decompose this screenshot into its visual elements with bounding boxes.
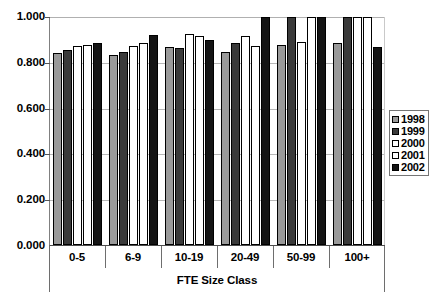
y-tick-label: 0.000 (0, 240, 45, 252)
bar (93, 43, 102, 245)
legend-swatch-icon (392, 164, 399, 171)
x-axis-category-label: 0-5 (49, 246, 105, 268)
bar (205, 40, 214, 245)
x-axis-category-label: 6-9 (105, 246, 161, 268)
bar (109, 55, 118, 245)
y-tick-label: 0.200 (0, 194, 45, 206)
legend-item[interactable]: 1999 (392, 125, 425, 137)
bar (363, 17, 372, 245)
y-tick-label: 0.400 (0, 149, 45, 161)
bar (297, 42, 306, 245)
legend-label: 2002 (401, 162, 425, 173)
category-label-text: 20-49 (231, 251, 259, 263)
legend-item[interactable]: 2000 (392, 137, 425, 149)
category-label-text: 50-99 (287, 251, 315, 263)
bar (83, 45, 92, 245)
bar (287, 17, 296, 245)
legend-label: 2001 (401, 150, 425, 161)
legend-item[interactable]: 2002 (392, 161, 425, 173)
bar (73, 46, 82, 246)
legend-item[interactable]: 1998 (392, 113, 425, 125)
category-label-text: 10-19 (175, 251, 203, 263)
bar-group (50, 17, 106, 245)
bar (231, 43, 240, 245)
legend-label: 1999 (401, 126, 425, 137)
category-separator (161, 246, 162, 268)
bar (165, 47, 174, 245)
bar (373, 47, 382, 245)
y-tick-label: 0.600 (0, 103, 45, 115)
bar (63, 50, 72, 245)
bar-groups (50, 17, 385, 245)
x-axis-category-label: 20-49 (217, 246, 273, 268)
bar-group (217, 17, 273, 245)
bar (119, 52, 128, 245)
bar-chart: 1.000 0.800 0.600 0.400 0.200 0.000 0-56… (0, 0, 437, 296)
bar (195, 36, 204, 245)
x-axis-category-label: 10-19 (161, 246, 217, 268)
category-separator (217, 246, 218, 268)
legend-swatch-icon (392, 140, 399, 147)
bar (175, 48, 184, 245)
axis-band-edge-right (384, 268, 385, 292)
bar (251, 46, 260, 246)
bar (129, 46, 138, 246)
x-axis-title: FTE Size Class (177, 274, 257, 286)
legend-label: 1998 (401, 114, 425, 125)
bar (149, 35, 158, 245)
bar-group (162, 17, 218, 245)
y-tick-label: 0.800 (0, 57, 45, 69)
bar (277, 45, 286, 245)
bar (53, 53, 62, 245)
category-separator (49, 246, 50, 268)
bar (221, 52, 230, 245)
bar (185, 34, 194, 245)
axis-band-edge-left (49, 268, 50, 292)
legend-swatch-icon (392, 152, 399, 159)
bar (343, 17, 352, 245)
bar (307, 17, 316, 245)
bar (317, 17, 326, 245)
x-axis-category-label: 50-99 (273, 246, 329, 268)
bar-group (106, 17, 162, 245)
category-separator (273, 246, 274, 268)
legend-item[interactable]: 2001 (392, 149, 425, 161)
legend: 19981999200020012002 (389, 110, 429, 176)
category-label-text: 6-9 (125, 251, 141, 263)
bar (261, 17, 270, 245)
plot-area (49, 17, 385, 246)
bar (139, 43, 148, 245)
legend-label: 2000 (401, 138, 425, 149)
y-tick-label: 1.000 (0, 11, 45, 23)
bar (333, 43, 342, 245)
x-axis-category-label: 100+ (329, 246, 385, 268)
x-axis-categories: 0-56-910-1920-4950-99100+ (49, 246, 385, 268)
bar (241, 36, 250, 245)
x-axis-title-band: FTE Size Class (49, 268, 385, 292)
bar-group (273, 17, 329, 245)
legend-swatch-icon (392, 116, 399, 123)
category-label-text: 0-5 (69, 251, 85, 263)
category-separator (384, 246, 385, 268)
category-separator (329, 246, 330, 268)
category-separator (105, 246, 106, 268)
legend-swatch-icon (392, 128, 399, 135)
category-label-text: 100+ (344, 251, 369, 263)
bar-group (329, 17, 385, 245)
y-axis: 1.000 0.800 0.600 0.400 0.200 0.000 (0, 0, 45, 296)
bar (353, 17, 362, 245)
